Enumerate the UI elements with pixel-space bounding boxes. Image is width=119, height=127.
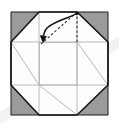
origami-diagram-svg bbox=[0, 0, 119, 127]
origami-figure: Origami fold step Octagon folding diagra… bbox=[0, 0, 119, 127]
center-panel bbox=[40, 43, 76, 84]
fold-origin-dot bbox=[76, 12, 79, 15]
